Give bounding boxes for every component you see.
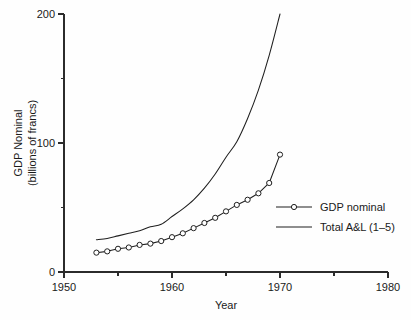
y-tick-label: 200 [37, 8, 55, 20]
x-axis-tick-labels: 1950196019701980 [52, 281, 400, 293]
data-point-marker [267, 180, 272, 185]
data-point-marker [213, 215, 218, 220]
legend-marker-circle-icon [291, 204, 296, 209]
series-line-total-al [96, 14, 280, 240]
data-point-marker [169, 235, 174, 240]
legend-label-total-al: Total A&L (1–5) [320, 221, 395, 233]
x-tick-label: 1950 [52, 281, 76, 293]
y-axis-ticks [58, 14, 64, 272]
y-axis-title-line1: GDP Nominal [12, 109, 24, 176]
data-point-marker [202, 220, 207, 225]
series-line-gdp-nominal [96, 155, 280, 253]
chart-container: 0100200 1950196019701980 Year GDP Nomina… [0, 0, 411, 320]
series-markers-gdp-nominal [94, 152, 283, 255]
y-tick-label: 0 [49, 266, 55, 278]
data-point-marker [245, 197, 250, 202]
y-axis-title-line2: (billions of francs) [26, 100, 38, 186]
data-point-marker [277, 152, 282, 157]
y-axis-tick-labels: 0100200 [37, 8, 55, 278]
data-point-marker [126, 245, 131, 250]
data-point-marker [180, 231, 185, 236]
x-tick-label: 1960 [160, 281, 184, 293]
data-point-marker [159, 238, 164, 243]
legend-entry-total-al[interactable]: Total A&L (1–5) [276, 221, 395, 233]
x-tick-label: 1980 [376, 281, 400, 293]
data-point-marker [256, 191, 261, 196]
data-point-marker [115, 246, 120, 251]
chart-legend: GDP nominal Total A&L (1–5) [276, 201, 395, 233]
x-tick-label: 1970 [268, 281, 292, 293]
data-point-marker [105, 249, 110, 254]
data-point-marker [94, 250, 99, 255]
y-tick-label: 100 [37, 137, 55, 149]
data-point-marker [234, 202, 239, 207]
data-point-marker [137, 242, 142, 247]
data-point-marker [223, 209, 228, 214]
x-axis-title: Year [215, 299, 238, 311]
legend-entry-gdp-nominal[interactable]: GDP nominal [276, 201, 385, 213]
line-chart: 0100200 1950196019701980 Year GDP Nomina… [0, 0, 411, 320]
legend-label-gdp-nominal: GDP nominal [320, 201, 385, 213]
x-axis-ticks [64, 272, 388, 278]
data-point-marker [148, 241, 153, 246]
data-point-marker [191, 226, 196, 231]
